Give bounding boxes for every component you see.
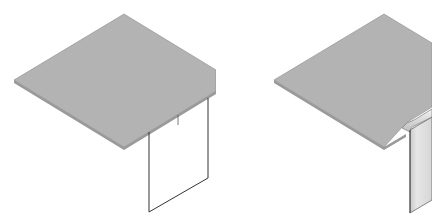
bent-plate-illustration [216,0,432,222]
bent-flange-face [410,117,432,213]
unbent-plate-illustration [0,0,216,222]
figure-bent-plate: Plate with bent flange (hemmed edge) [216,0,432,222]
plate-top-surface [14,14,216,147]
figure-unbent-plate: Flat plate with hanging flat panel (unbe… [0,0,216,222]
